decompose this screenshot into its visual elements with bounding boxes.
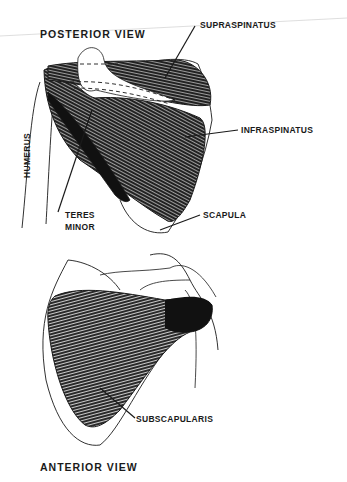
posterior-view-title: POSTERIOR VIEW: [40, 28, 146, 40]
label-subscapularis: SUBSCAPULARIS: [136, 414, 213, 424]
label-teres-minor-line1: TERES: [65, 210, 95, 220]
label-humerus: HUMERUS: [22, 133, 32, 178]
label-supraspinatus: SUPRASPINATUS: [200, 20, 276, 30]
label-teres-minor-line2: MINOR: [65, 222, 95, 232]
subscapularis-tendon: [165, 297, 212, 333]
label-infraspinatus: INFRASPINATUS: [241, 125, 313, 135]
label-scapula: SCAPULA: [203, 210, 246, 220]
anatomy-illustration: [0, 0, 347, 482]
anterior-view-title: ANTERIOR VIEW: [40, 461, 138, 473]
posterior-view-drawing: [22, 26, 238, 233]
